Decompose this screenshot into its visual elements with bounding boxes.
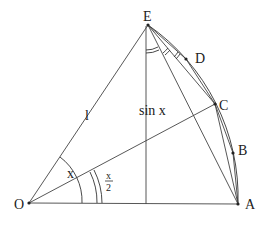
angle-mark-E-2 bbox=[146, 50, 159, 53]
label-A: A bbox=[245, 197, 256, 212]
segment-OA bbox=[29, 203, 238, 204]
label-B: B bbox=[238, 143, 247, 158]
point-B bbox=[231, 151, 234, 154]
angle-mark-E-3 bbox=[163, 48, 168, 53]
segment-OC bbox=[29, 104, 215, 203]
point-A bbox=[236, 202, 239, 205]
label-angle-half-num: x bbox=[106, 170, 111, 181]
angle-mark-E-6 bbox=[176, 54, 180, 59]
angle-mark-E-5 bbox=[174, 52, 178, 57]
point-C bbox=[213, 102, 216, 105]
label-radius: l bbox=[85, 108, 89, 123]
segment-ED bbox=[148, 25, 186, 59]
label-O: O bbox=[14, 197, 24, 212]
label-E: E bbox=[143, 9, 152, 24]
label-sine: sin x bbox=[139, 103, 166, 118]
geometry-diagram: E D C B A O l sin x x x 2 bbox=[0, 0, 266, 225]
angle-half-arc-1 bbox=[90, 172, 97, 203]
point-D bbox=[184, 57, 187, 60]
point-O bbox=[27, 201, 30, 204]
label-D: D bbox=[195, 51, 205, 66]
label-angle-half-den: 2 bbox=[106, 182, 111, 193]
segment-CA bbox=[215, 104, 238, 204]
angle-mark-E-1 bbox=[146, 47, 158, 50]
label-C: C bbox=[219, 98, 228, 113]
label-angle-x: x bbox=[67, 166, 74, 181]
